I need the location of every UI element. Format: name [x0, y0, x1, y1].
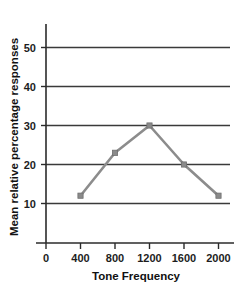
x-tick-label-1600: 1600 — [172, 252, 196, 264]
y-tick-label-20: 20 — [24, 159, 36, 171]
y-tick-label-30: 30 — [24, 120, 36, 132]
y-axis-title: Mean relative percentage responses — [8, 38, 20, 236]
series-line-mean-response — [81, 126, 219, 196]
chart-figure: 50 40 30 20 10 0 400 800 1200 1600 2000 … — [0, 0, 238, 288]
data-point-1200 — [147, 123, 152, 128]
data-point-1600 — [181, 162, 186, 167]
x-tick-label-400: 400 — [71, 252, 89, 264]
y-tick-label-50: 50 — [24, 42, 36, 54]
data-point-400 — [78, 193, 83, 198]
x-tick-label-800: 800 — [106, 252, 124, 264]
plot-area: 50 40 30 20 10 0 400 800 1200 1600 2000 … — [0, 0, 238, 288]
y-tick-label-10: 10 — [24, 198, 36, 210]
data-point-2000 — [216, 193, 221, 198]
y-tick-label-40: 40 — [24, 81, 36, 93]
data-point-800 — [112, 150, 117, 155]
x-tick-label-2000: 2000 — [206, 252, 230, 264]
line-chart-svg: 50 40 30 20 10 0 400 800 1200 1600 2000 … — [0, 0, 238, 288]
x-tick-label-0: 0 — [43, 252, 49, 264]
x-axis-title: Tone Frequency — [92, 270, 181, 282]
x-tick-label-1200: 1200 — [137, 252, 161, 264]
